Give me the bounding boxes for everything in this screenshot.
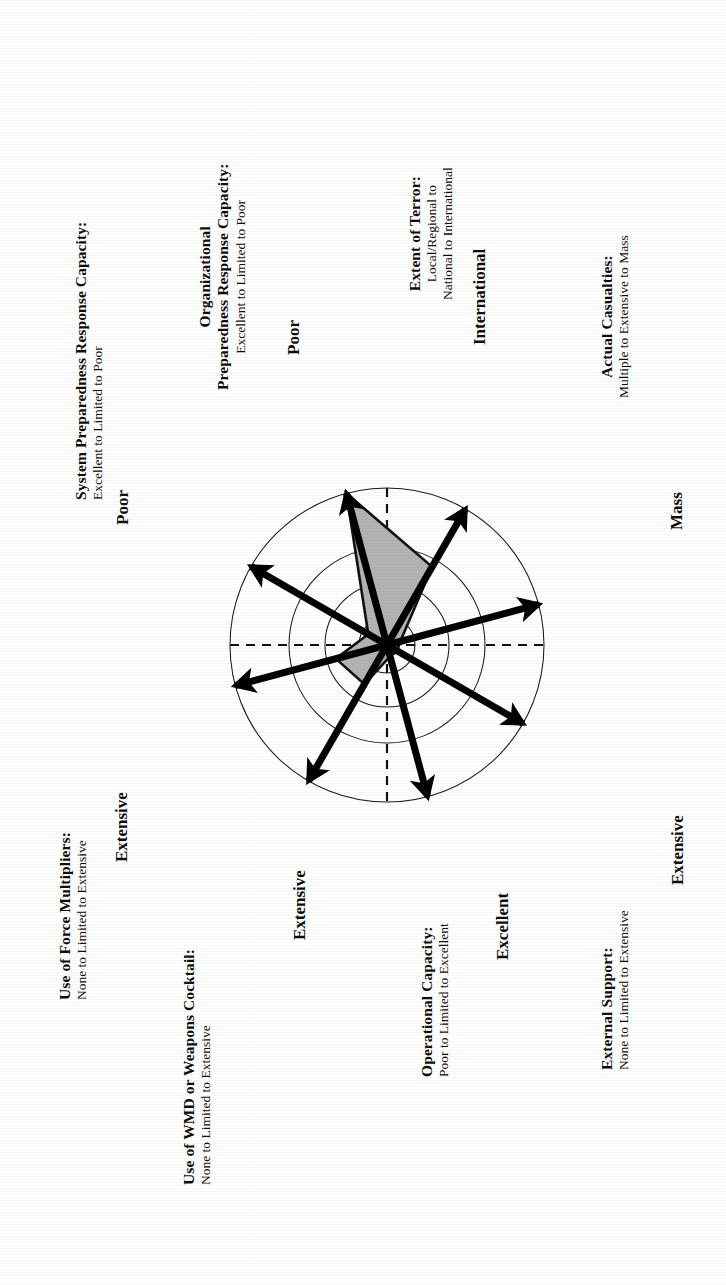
radar-chart-svg — [0, 0, 726, 1285]
axis-tip-system-preparedness-text: Poor — [113, 490, 132, 525]
axis-tip-use-of-force-multipliers: Extensive — [112, 792, 132, 862]
label-operational-capacity-title: Operational Capacity: — [418, 923, 436, 1077]
label-system-preparedness-title: System Preparedness Response Capacity: — [72, 222, 90, 500]
label-system-preparedness: System Preparedness Response Capacity: E… — [72, 222, 106, 500]
axis-tip-organizational-preparedness: Poor — [284, 320, 304, 355]
label-external-support-title: External Support: — [598, 910, 616, 1070]
label-organizational-preparedness: Organizational Preparedness Response Cap… — [196, 164, 248, 390]
label-external-support-scale: None to Limited to Extensive — [616, 910, 632, 1070]
label-organizational-preparedness-title-b: Preparedness Response Capacity: — [214, 164, 232, 390]
label-use-of-force-multipliers-scale: None to Limited to Extensive — [74, 832, 90, 1000]
axis-tip-use-of-wmd-text: Extensive — [290, 870, 309, 940]
label-use-of-wmd-title: Use of WMD or Weapons Cocktail: — [180, 949, 198, 1185]
label-system-preparedness-scale: Excellent to Limited to Poor — [90, 222, 106, 500]
label-organizational-preparedness-scale: Excellent to Limited to Poor — [233, 164, 249, 390]
label-extent-of-terror-title: Extent of Terror: — [406, 167, 424, 300]
axis-tip-operational-capacity-text: Excellent — [493, 893, 512, 960]
label-external-support: External Support: None to Limited to Ext… — [598, 910, 632, 1070]
label-use-of-force-multipliers: Use of Force Multipliers: None to Limite… — [56, 832, 90, 1000]
axis-tip-use-of-wmd: Extensive — [290, 870, 310, 940]
label-operational-capacity: Operational Capacity: Poor to Limited to… — [418, 923, 452, 1077]
label-actual-casualties-title: Actual Casualties: — [598, 235, 616, 398]
axis-tip-extent-of-terror: International — [470, 249, 490, 345]
label-use-of-wmd-scale: None to Limited to Extensive — [198, 949, 214, 1185]
label-organizational-preparedness-title-a: Organizational — [196, 164, 214, 390]
axis-tip-external-support: Extensive — [668, 815, 688, 885]
label-extent-of-terror-scale-b: National to International — [440, 167, 456, 300]
axis-tip-actual-casualties-text: Mass — [667, 492, 686, 530]
axis-tip-organizational-preparedness-text: Poor — [284, 320, 303, 355]
label-extent-of-terror-scale-a: Local/Regional to — [424, 167, 440, 300]
label-actual-casualties: Actual Casualties: Multiple to Extensive… — [598, 235, 632, 398]
label-extent-of-terror: Extent of Terror: Local/Regional to Nati… — [406, 167, 456, 300]
label-operational-capacity-scale: Poor to Limited to Excellent — [436, 923, 452, 1077]
axis-tip-system-preparedness: Poor — [113, 490, 133, 525]
axis-tip-actual-casualties: Mass — [667, 492, 687, 530]
label-use-of-wmd: Use of WMD or Weapons Cocktail: None to … — [180, 949, 214, 1185]
axis-tip-operational-capacity: Excellent — [493, 893, 513, 960]
axis-tip-use-of-force-multipliers-text: Extensive — [112, 792, 131, 862]
label-actual-casualties-scale: Multiple to Extensive to Mass — [616, 235, 632, 398]
axis-tip-extent-of-terror-text: International — [470, 249, 489, 345]
label-use-of-force-multipliers-title: Use of Force Multipliers: — [56, 832, 74, 1000]
axis-tip-external-support-text: Extensive — [668, 815, 687, 885]
figure-canvas: System Preparedness Response Capacity: E… — [0, 0, 726, 1285]
